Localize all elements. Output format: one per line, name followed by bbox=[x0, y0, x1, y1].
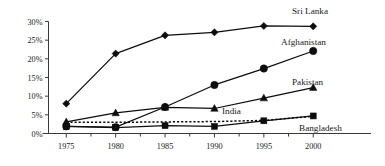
marker-diamond bbox=[260, 22, 267, 29]
series-afghanistan bbox=[63, 47, 317, 131]
x-tick-label: 2000 bbox=[305, 142, 321, 151]
marker-diamond bbox=[161, 32, 168, 39]
series-pakistan bbox=[63, 84, 317, 125]
marker-square bbox=[310, 113, 316, 119]
y-axis-tick-labels: 0%5%10%15%20%25%30% bbox=[27, 18, 42, 139]
y-tick-label: 25% bbox=[27, 36, 42, 45]
series-label-text: Pakistan bbox=[292, 77, 324, 87]
line-chart: 0%5%10%15%20%25%30% 19751980198519901995… bbox=[0, 0, 385, 166]
marker-circle bbox=[211, 81, 218, 88]
marker-square bbox=[63, 123, 69, 129]
y-tick-label: 15% bbox=[27, 74, 42, 83]
x-tick-label: 1985 bbox=[157, 142, 173, 151]
x-tick-label: 1980 bbox=[107, 142, 123, 151]
y-tick-label: 20% bbox=[27, 55, 42, 64]
x-tick-label: 1995 bbox=[256, 142, 272, 151]
chart-plot-area: 0%5%10%15%20%25%30% 19751980198519901995… bbox=[0, 0, 385, 166]
y-tick-label: 30% bbox=[27, 18, 42, 27]
x-tick-label: 1975 bbox=[58, 142, 74, 151]
x-axis-tick-labels: 197519801985199019952000 bbox=[58, 142, 321, 151]
y-tick-label: 0% bbox=[32, 130, 43, 139]
marker-square bbox=[261, 118, 267, 124]
marker-square bbox=[162, 123, 168, 129]
data-series bbox=[63, 22, 317, 130]
series-label-text: Afghanistan bbox=[281, 37, 326, 47]
x-tick-label: 1990 bbox=[206, 142, 222, 151]
series-labels: Sri LankaAfghanistanPakistanIndiaBanglad… bbox=[222, 6, 342, 133]
y-tick-label: 5% bbox=[32, 111, 43, 120]
series-label-text: Bangladesh bbox=[299, 123, 342, 133]
marker-diamond bbox=[211, 29, 218, 36]
series-line bbox=[66, 88, 313, 122]
y-tick-label: 10% bbox=[27, 92, 42, 101]
marker-circle bbox=[310, 47, 317, 54]
series-label-text: Sri Lanka bbox=[292, 6, 328, 16]
marker-square bbox=[211, 123, 217, 129]
marker-diamond bbox=[310, 23, 317, 30]
series-label-text: India bbox=[222, 106, 241, 116]
marker-circle bbox=[260, 65, 267, 72]
marker-square bbox=[113, 125, 119, 131]
